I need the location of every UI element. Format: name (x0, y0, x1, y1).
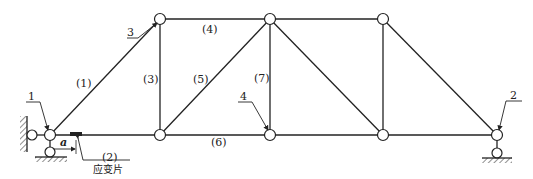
truss-diagram: (1) (2) (3) (4) (5) (6) (7) 1 2 3 4 a 应变… (0, 0, 533, 179)
joint (378, 130, 389, 141)
member-label-2: (2) (102, 151, 118, 164)
callout-2: 2 (510, 89, 517, 102)
diagonal-right (383, 19, 497, 135)
joint (45, 130, 56, 141)
member-label-3: (3) (143, 73, 159, 86)
callout-leaders (26, 23, 522, 130)
callout-1: 1 (28, 90, 35, 103)
member-label-6: (6) (211, 136, 227, 149)
joint (155, 14, 166, 25)
member-label-7: (7) (254, 72, 270, 85)
member-label-5: (5) (193, 73, 209, 86)
truss-joints (45, 14, 503, 141)
member-label-4: (4) (202, 23, 218, 36)
joint (378, 14, 389, 25)
strain-gauge (70, 132, 130, 160)
strain-gauge-label: 应变片 (93, 163, 123, 175)
member-label-1: (1) (76, 77, 92, 90)
joint (265, 14, 276, 25)
callout-4: 4 (240, 90, 247, 103)
joint (265, 130, 276, 141)
joint (492, 130, 503, 141)
joint (155, 130, 166, 141)
diagonal-center (270, 19, 383, 135)
dimension-label-a: a (60, 136, 67, 149)
truss-members (50, 19, 497, 135)
callout-3: 3 (127, 26, 134, 39)
